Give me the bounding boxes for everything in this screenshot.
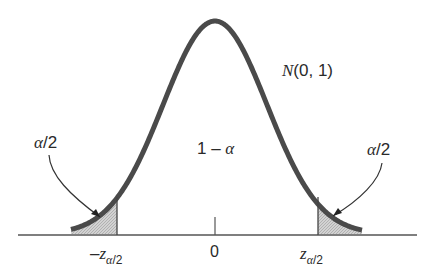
right-critical-value-label: zα/2 — [300, 243, 323, 268]
distribution-label: N(0, 1) — [282, 60, 333, 81]
right-tail-label: α/2 — [367, 139, 390, 160]
right-tail-arrow — [333, 163, 382, 216]
center-area-label: 1 – α — [197, 139, 234, 159]
zero-label: 0 — [210, 243, 219, 261]
right-arrowhead-icon — [333, 208, 342, 216]
left-critical-value-label: –zα/2 — [90, 243, 122, 268]
normal-curve-diagram — [0, 0, 444, 276]
left-tail-label: α/2 — [34, 132, 57, 153]
left-tail-arrow — [49, 155, 100, 217]
